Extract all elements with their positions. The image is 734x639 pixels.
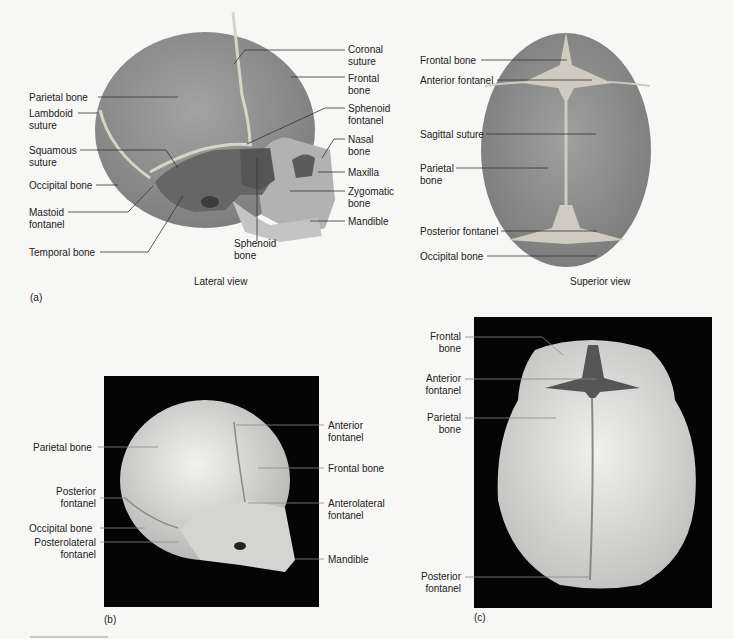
ear-canal [201,196,219,208]
panel-a-tag: (a) [30,292,42,303]
label-superior-frontal-bone: Frontal bone [420,55,476,67]
lateral-skull-illustration [95,12,335,242]
label-c-parietal-bone: Parietal bone [400,412,461,436]
label-zygomatic-bone: Zygomatic bone [348,186,394,210]
label-sphenoid-fontanel: Sphenoid fontanel [348,103,390,127]
label-lambdoid-suture: Lambdoid suture [29,108,73,132]
caption-superior-view: Superior view [570,276,631,287]
label-b-posterolateral-fontanel: Posterolateral fontanel [20,537,96,561]
label-maxilla: Maxilla [348,167,379,179]
label-b-parietal-bone: Parietal bone [33,442,92,454]
label-c-posterior-fontanel: Posterior fontanel [400,571,461,595]
label-nasal-bone: Nasal bone [348,134,374,158]
superior-skull-illustration [481,32,651,267]
label-sagittal-suture: Sagittal suture [420,129,484,141]
label-superior-occipital-bone: Occipital bone [420,251,483,263]
label-superior-parietal-bone: Parietal bone [420,163,454,187]
orbit [292,154,315,178]
label-temporal-bone: Temporal bone [29,247,95,259]
label-b-frontal-bone: Frontal bone [328,463,384,475]
label-superior-anterior-fontanel: Anterior fontanel [420,75,493,87]
label-b-anterolateral-fontanel: Anterolateral fontanel [328,498,385,522]
label-sphenoid-bone: Sphenoid bone [234,238,276,262]
label-mandible: Mandible [348,216,389,228]
label-mastoid-fontanel: Mastoid fontanel [29,207,65,231]
label-b-posterior-fontanel: Posterior fontanel [44,486,96,510]
label-superior-posterior-fontanel: Posterior fontanel [420,226,498,238]
label-parietal-bone: Parietal bone [29,92,88,104]
label-c-frontal-bone: Frontal bone [400,331,461,355]
label-coronal-suture: Coronal suture [348,44,383,68]
label-c-anterior-fontanel: Anterior fontanel [400,373,461,397]
caption-lateral-view: Lateral view [194,276,247,287]
label-frontal-bone: Frontal bone [348,73,379,97]
label-occipital-bone: Occipital bone [29,180,92,192]
panel-c-tag: (c) [474,612,486,623]
photo-c-skull [498,340,696,589]
label-b-mandible: Mandible [328,554,369,566]
label-b-anterior-fontanel: Anterior fontanel [328,420,364,444]
panel-b-tag: (b) [104,614,116,625]
label-b-occipital-bone: Occipital bone [29,523,92,535]
label-squamous-suture: Squamous suture [29,145,77,169]
